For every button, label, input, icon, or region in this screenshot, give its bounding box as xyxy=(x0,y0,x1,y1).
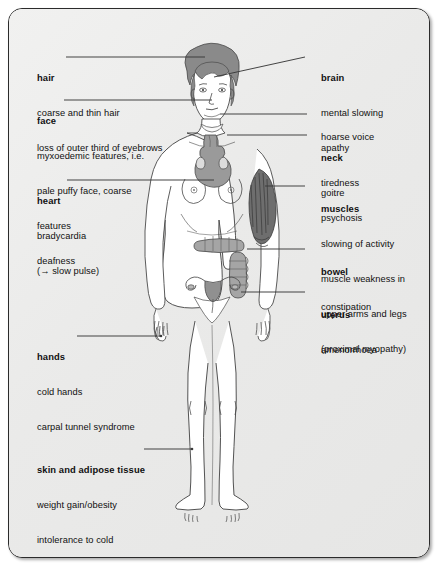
label-face-heading: face xyxy=(37,115,144,127)
label-uterus-line-1: amenorrhoea xyxy=(321,345,377,357)
ovary-left-icon xyxy=(188,285,194,289)
label-heart-line-2: (→ slow pulse) xyxy=(37,266,99,278)
label-brain-heading: brain xyxy=(321,72,383,84)
leg-right-outline xyxy=(216,321,248,510)
label-bowel-heading: bowel xyxy=(321,266,371,278)
leg-left-outline xyxy=(176,321,208,510)
diagram-panel: hair coarse and thin hair loss of outer … xyxy=(8,8,430,558)
ovary-right-icon xyxy=(232,285,238,289)
pupil-right-icon xyxy=(221,89,223,91)
label-hands-heading: hands xyxy=(37,351,135,363)
label-skin-heading: skin and adipose tissue xyxy=(37,464,152,476)
label-hands-line-1: cold hands xyxy=(37,387,135,399)
label-heart-heading: heart xyxy=(37,195,99,207)
toes-right-icon xyxy=(226,513,239,522)
label-uterus-heading: uterus xyxy=(321,309,377,321)
label-skin-line-1: weight gain/obesity xyxy=(37,500,152,512)
head-group xyxy=(185,43,239,122)
label-muscles-heading: muscles xyxy=(321,203,407,215)
label-skin-line-2: intolerance to cold xyxy=(37,535,152,547)
label-neck-heading: neck xyxy=(321,152,345,164)
label-heart-line-1: bradycardia xyxy=(37,231,99,243)
label-face-line-1: myxoedemic features, i.e. xyxy=(37,151,144,163)
toes-left-icon xyxy=(185,513,198,522)
pupil-left-icon xyxy=(202,89,204,91)
label-hair-heading: hair xyxy=(37,72,163,84)
legs-group xyxy=(176,321,249,522)
diagram-page: hair coarse and thin hair loss of outer … xyxy=(0,0,440,569)
label-hands-line-2: carpal tunnel syndrome xyxy=(37,422,135,434)
label-skin-and-adipose-tissue: skin and adipose tissue weight gain/obes… xyxy=(37,441,152,558)
label-uterus: uterus amenorrhoea xyxy=(321,286,377,380)
label-heart: heart bradycardia (→ slow pulse) xyxy=(37,172,99,301)
inner-leg-line xyxy=(212,325,213,505)
label-hands: hands cold hands carpal tunnel syndrome xyxy=(37,328,135,457)
